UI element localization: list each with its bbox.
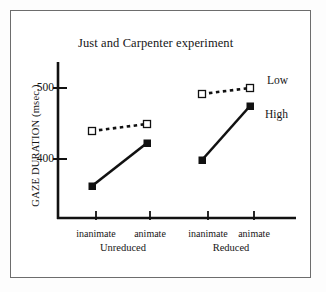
y-tick-label-500: 500 xyxy=(20,81,54,93)
series-high-marker-unreduced-animate xyxy=(144,140,152,148)
x-group-label-reduced: Reduced xyxy=(181,242,281,253)
series-low-segment-unreduced xyxy=(92,124,147,131)
figure-container: Just and Carpenter experiment GAZE DURAT… xyxy=(0,0,326,292)
x-tick-label-unreduced-inanimate: inanimate xyxy=(65,228,127,239)
series-high-marker-unreduced-inanimate xyxy=(89,183,97,191)
series-low-marker-unreduced-inanimate xyxy=(89,128,96,135)
series-high-marker-reduced-inanimate xyxy=(199,157,207,165)
x-group-label-unreduced: Unreduced xyxy=(73,242,173,253)
y-axis-title: GAZE DURATION (msec.) xyxy=(30,71,41,221)
x-tick-label-unreduced-animate: animate xyxy=(119,228,181,239)
series-low-marker-reduced-inanimate xyxy=(199,91,206,98)
series-label-high: High xyxy=(265,108,288,120)
series-high-marker-reduced-animate xyxy=(247,103,255,111)
series-high-segment-reduced xyxy=(202,106,250,160)
series-low-segment-reduced xyxy=(202,88,250,94)
y-tick-label-400: 400 xyxy=(20,152,54,164)
series-label-low: Low xyxy=(267,74,288,86)
x-tick-label-reduced-animate: animate xyxy=(223,228,285,239)
series-low-marker-unreduced-animate xyxy=(144,121,151,128)
series-high-segment-unreduced xyxy=(92,143,147,186)
chart-title: Just and Carpenter experiment xyxy=(78,36,233,51)
series-low-marker-reduced-animate xyxy=(247,85,254,92)
